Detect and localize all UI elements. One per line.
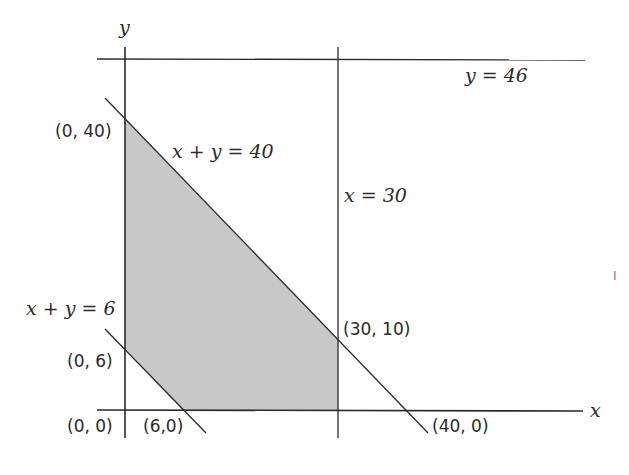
label-y-46: y = 46 xyxy=(464,64,528,86)
point-label-30-10: (30, 10) xyxy=(343,319,410,339)
label-x-plus-y-40: x + y = 40 xyxy=(172,140,274,162)
label-x-30: x = 30 xyxy=(344,184,407,206)
point-label-0-6: (0, 6) xyxy=(67,351,113,371)
x-axis-label: x xyxy=(590,399,601,421)
point-label-40-0: (40, 0) xyxy=(432,416,489,436)
y-axis-label: y xyxy=(118,16,130,38)
lp-diagram: y x y = 46 x = 30 x + y = 40 x + y = 6 (… xyxy=(0,0,629,475)
x-axis xyxy=(97,410,583,411)
label-x-plus-y-6: x + y = 6 xyxy=(26,297,116,319)
point-label-0-40: (0, 40) xyxy=(55,121,112,141)
stray-mark: I xyxy=(613,269,617,283)
point-label-6-0: (6,0) xyxy=(143,416,183,436)
point-label-0-0: (0, 0) xyxy=(67,416,113,436)
line-y-46 xyxy=(97,59,585,60)
